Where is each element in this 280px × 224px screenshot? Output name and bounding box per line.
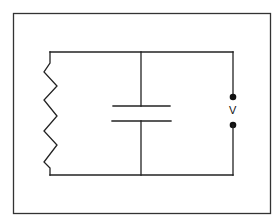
terminal-top-dot xyxy=(230,94,237,101)
capacitor-icon xyxy=(112,52,171,175)
voltage-label: V xyxy=(229,105,236,116)
resistor-icon xyxy=(44,52,57,175)
circuit-diagram xyxy=(0,0,280,224)
